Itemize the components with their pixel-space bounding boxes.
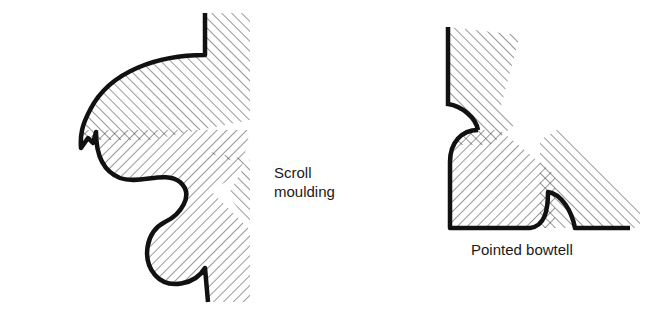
scroll-label-line-1: Scroll bbox=[274, 163, 335, 182]
pointed-bowtell-figure bbox=[448, 27, 640, 228]
scroll-moulding-figure bbox=[80, 13, 250, 302]
scroll-moulding-label: Scroll moulding bbox=[274, 163, 335, 201]
pointed-bowtell-label: Pointed bowtell bbox=[471, 240, 573, 259]
scroll-label-line-2: moulding bbox=[274, 182, 335, 201]
